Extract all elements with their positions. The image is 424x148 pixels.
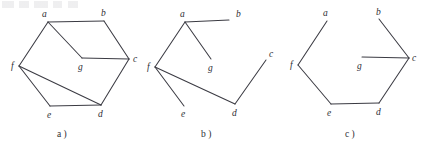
graph-panel-c: abcdefgc ) [290,7,417,140]
graph-edge-g-c [82,58,129,59]
graph-edge-f-d [155,67,235,104]
vertex-label-b: b [101,8,106,18]
graph-edge-c-b [379,19,409,58]
graph-figure-canvas: abcdefga )abcdefgb )abcdefgc ) [0,0,424,148]
edge-group [298,19,409,104]
panel-caption-c: c ) [345,129,355,140]
vertex-label-b: b [236,9,241,19]
graph-edge-a-b [48,21,104,22]
vertex-label-c: c [269,49,274,59]
graph-edge-d-c [235,60,266,104]
graph-edge-a-f [298,21,327,65]
graph-edge-d-e [50,105,101,106]
graph-edge-c-g [362,57,409,58]
graph-panel-a: abcdefga ) [11,8,138,140]
vertex-label-f: f [147,62,151,72]
panel-caption-b: b ) [201,129,211,140]
vertex-label-d: d [98,109,103,119]
graph-edge-a-b [185,20,229,22]
graph-edge-c-d [101,59,129,105]
vertex-label-d: d [232,108,237,118]
graph-edge-f-a [19,22,48,66]
graph-edge-a-g [185,22,211,59]
vertex-label-g: g [208,63,213,73]
graph-panel-b: abcdefgb ) [147,9,274,140]
vertex-label-c: c [133,54,138,64]
graph-edge-f-e [298,65,331,104]
graph-edge-a-g [48,22,82,58]
vertex-label-f: f [11,61,15,71]
vertex-label-f: f [290,60,294,70]
vertex-label-g: g [357,61,362,71]
graph-edge-e-f [19,66,50,106]
vertex-label-group: abcdefg [11,8,138,120]
graph-edge-f-e [155,67,184,106]
vertex-label-c: c [412,53,417,63]
vertex-label-e: e [181,109,185,119]
vertex-label-a: a [180,9,185,19]
graph-figure: abcdefga )abcdefgb )abcdefgc ) [0,0,424,148]
panels-group: abcdefga )abcdefgb )abcdefgc ) [11,7,417,140]
graph-edge-d-c [379,58,409,103]
graph-edge-f-d [19,66,101,105]
graph-edge-e-d [331,103,379,104]
vertex-label-group: abcdefg [290,7,417,118]
vertex-label-b: b [376,7,381,17]
graph-edge-b-c [104,21,129,59]
vertex-label-d: d [376,107,381,117]
vertex-label-a: a [42,9,47,19]
vertex-label-g: g [78,62,83,72]
vertex-label-e: e [327,108,331,118]
panel-caption-a: a ) [57,129,67,140]
edge-group [19,21,129,106]
vertex-label-a: a [323,8,328,18]
vertex-label-e: e [47,110,51,120]
graph-edge-a-f [155,22,185,67]
vertex-label-group: abcdefg [147,9,274,119]
